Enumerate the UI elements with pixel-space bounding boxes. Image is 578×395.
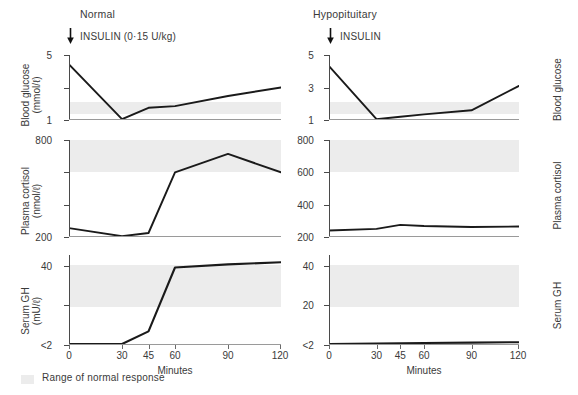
series-line-serum-gh	[69, 255, 281, 345]
ylabel-line1: Serum GH	[20, 274, 31, 348]
x-tick-label: 60	[418, 350, 429, 361]
ylabel-plasma-cortisol-right: Plasma cortisol	[552, 156, 563, 236]
x-tick	[472, 345, 473, 349]
column-title-hypopituitary: Hypopituitary	[313, 8, 377, 20]
panel-hypopituitary-blood-glucose: 5 3 1	[329, 55, 519, 120]
x-tick	[377, 345, 378, 349]
x-tick-label: 45	[395, 350, 406, 361]
x-tick	[175, 345, 176, 349]
panel-normal-serum-gh: 40 <2 0 30 45 60 90 120 Minutes	[69, 255, 281, 345]
x-axis-label: Minutes	[406, 365, 441, 376]
x-axis	[69, 236, 281, 237]
y-tick-label: 200	[35, 232, 52, 243]
down-arrow-icon	[66, 28, 75, 44]
series-line-serum-gh	[329, 255, 519, 345]
x-tick-label: 45	[143, 350, 154, 361]
insulin-label-normal: INSULIN (0·15 U/kg)	[80, 31, 176, 42]
plot-area	[329, 55, 519, 120]
x-tick-label: 0	[326, 350, 332, 361]
insulin-tolerance-test-figure: Normal Hypopituitary INSULIN (0·15 U/kg)…	[0, 0, 578, 395]
ylabel-line2: (nmol/ℓ)	[31, 161, 42, 241]
x-tick	[329, 345, 330, 349]
y-tick-label: 200	[297, 232, 314, 243]
x-tick	[424, 345, 425, 349]
ylabel-serum-gh-right: Serum GH	[552, 269, 563, 343]
plot-area	[69, 55, 281, 120]
y-tick-label: 600	[297, 167, 314, 178]
y-tick-label: 800	[297, 135, 314, 146]
x-axis	[329, 119, 519, 120]
x-axis	[69, 119, 281, 120]
x-tick	[400, 345, 401, 349]
y-tick	[64, 120, 69, 121]
y-tick-label: <2	[41, 340, 52, 351]
ylabel-line1: Plasma cortisol	[20, 161, 31, 241]
panel-normal-plasma-cortisol: 800 200	[69, 140, 281, 237]
y-tick	[64, 237, 69, 238]
y-tick	[324, 266, 329, 267]
y-tick	[324, 172, 329, 173]
ylabel-line2: (mU/ℓ)	[31, 274, 42, 348]
x-tick	[149, 345, 150, 349]
y-tick	[324, 237, 329, 238]
y-tick	[324, 140, 329, 141]
y-axis	[329, 255, 330, 345]
panel-normal-blood-glucose: 5 1	[69, 55, 281, 120]
legend-swatch	[21, 375, 34, 384]
x-tick-label: 90	[466, 350, 477, 361]
insulin-label-hypopituitary: INSULIN	[340, 31, 381, 42]
series-line-plasma-cortisol	[329, 140, 519, 237]
ylabel-serum-gh-left: Serum GH (mU/ℓ)	[20, 274, 42, 348]
x-tick	[518, 345, 519, 349]
x-tick-label: 60	[169, 350, 180, 361]
y-tick-label: 3	[308, 82, 314, 93]
y-tick-label: 40	[41, 260, 52, 271]
y-tick-label: 40	[303, 260, 314, 271]
y-tick-label: 20	[303, 300, 314, 311]
y-tick	[324, 205, 329, 206]
x-tick-label: 120	[510, 350, 527, 361]
panel-hypopituitary-serum-gh: 40 20 <2 0 30 45 60 90 120 Minutes	[329, 255, 519, 345]
x-tick-label: 30	[116, 350, 127, 361]
y-tick	[64, 305, 69, 306]
ylabel-blood-glucose-right: Blood glucose	[552, 50, 563, 130]
y-axis	[69, 55, 70, 120]
y-tick	[324, 88, 329, 89]
y-tick-label: 400	[297, 199, 314, 210]
y-tick	[64, 205, 69, 206]
y-tick	[64, 88, 69, 89]
y-tick	[64, 55, 69, 56]
y-tick-label: 5	[46, 50, 52, 61]
x-tick-label: 0	[66, 350, 72, 361]
x-tick	[280, 345, 281, 349]
y-tick-label: 5	[308, 50, 314, 61]
y-tick	[324, 305, 329, 306]
x-tick	[228, 345, 229, 349]
y-axis	[69, 255, 70, 345]
down-arrow-icon	[326, 28, 335, 44]
ylabel-blood-glucose-left: Blood glucose (mmol/ℓ)	[20, 55, 42, 135]
y-tick-label: 1	[46, 115, 52, 126]
x-tick	[69, 345, 70, 349]
series-line-blood-glucose	[69, 55, 281, 120]
x-tick-label: 30	[371, 350, 382, 361]
series-line-plasma-cortisol	[69, 140, 281, 237]
column-title-normal: Normal	[80, 8, 115, 20]
x-tick	[122, 345, 123, 349]
y-tick-label: 800	[35, 135, 52, 146]
y-axis	[69, 140, 70, 237]
y-tick-label: <2	[302, 340, 313, 351]
y-tick	[64, 172, 69, 173]
x-axis	[329, 236, 519, 237]
y-tick	[324, 120, 329, 121]
plot-area	[69, 255, 281, 345]
panel-hypopituitary-plasma-cortisol: 800 600 400 200	[329, 140, 519, 237]
y-axis	[329, 55, 330, 120]
plot-area	[329, 140, 519, 237]
ylabel-plasma-cortisol-left: Plasma cortisol (nmol/ℓ)	[20, 161, 42, 241]
plot-area	[69, 140, 281, 237]
plot-area	[329, 255, 519, 345]
ylabel-line2: (mmol/ℓ)	[31, 55, 42, 135]
y-tick	[324, 55, 329, 56]
ylabel-line1: Blood glucose	[20, 55, 31, 135]
